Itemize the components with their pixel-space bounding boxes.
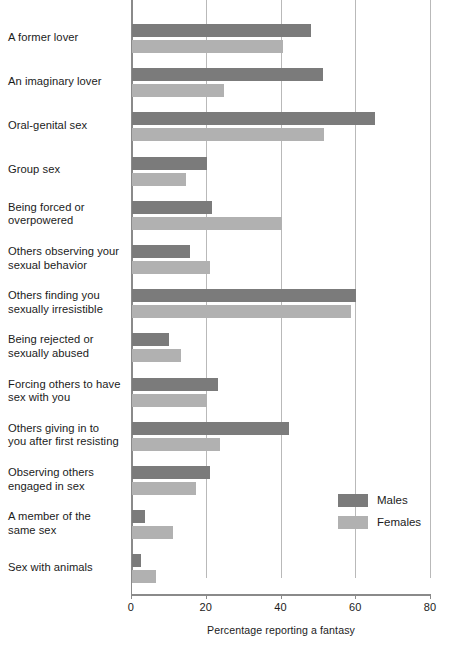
category-label-12: Sex with animals bbox=[8, 561, 126, 575]
bar-males-0 bbox=[132, 24, 311, 37]
bar-females-9 bbox=[132, 438, 220, 451]
bar-females-5 bbox=[132, 261, 210, 274]
bar-males-12 bbox=[132, 554, 141, 567]
tick-label-60: 60 bbox=[349, 601, 362, 613]
category-label-7: Being rejected orsexually abused bbox=[8, 333, 126, 360]
tick-mark-80 bbox=[430, 594, 431, 599]
legend: Males Females bbox=[338, 489, 438, 533]
category-label-3: Group sex bbox=[8, 163, 126, 177]
bar-females-1 bbox=[132, 84, 224, 97]
bar-males-3 bbox=[132, 157, 207, 170]
tick-label-80: 80 bbox=[424, 601, 437, 613]
category-label-11: A member of thesame sex bbox=[8, 510, 126, 537]
bar-males-7 bbox=[132, 333, 169, 346]
bar-males-8 bbox=[132, 378, 218, 391]
category-label-9: Others giving in toyou after first resis… bbox=[8, 422, 126, 449]
legend-item-females: Females bbox=[338, 511, 438, 533]
bar-males-11 bbox=[132, 510, 145, 523]
category-label-0: A former lover bbox=[8, 31, 126, 45]
category-label-6: Others finding yousexually irresistible bbox=[8, 289, 126, 316]
tick-mark-40 bbox=[281, 594, 282, 599]
bar-females-0 bbox=[132, 40, 283, 53]
category-label-10: Observing othersengaged in sex bbox=[8, 466, 126, 493]
tick-mark-60 bbox=[355, 594, 356, 599]
bar-chart: A former loverAn imaginary loverOral-gen… bbox=[0, 0, 455, 646]
category-label-2: Oral-genital sex bbox=[8, 119, 126, 133]
bar-males-6 bbox=[132, 289, 356, 302]
category-label-8: Forcing others to havesex with you bbox=[8, 378, 126, 405]
bar-females-7 bbox=[132, 349, 181, 362]
bar-males-10 bbox=[132, 466, 210, 479]
legend-swatch-males bbox=[338, 494, 368, 507]
legend-swatch-females bbox=[338, 516, 368, 529]
bar-females-4 bbox=[132, 217, 282, 230]
category-label-1: An imaginary lover bbox=[8, 75, 126, 89]
legend-item-males: Males bbox=[338, 489, 438, 511]
tick-label-40: 40 bbox=[274, 601, 287, 613]
bar-males-5 bbox=[132, 245, 190, 258]
bar-females-8 bbox=[132, 394, 207, 407]
bar-females-2 bbox=[132, 128, 324, 141]
category-label-4: Being forced oroverpowered bbox=[8, 201, 126, 228]
bar-males-4 bbox=[132, 201, 212, 214]
bar-males-1 bbox=[132, 68, 323, 81]
tick-label-0: 0 bbox=[128, 601, 134, 613]
legend-label-males: Males bbox=[377, 494, 408, 506]
bar-females-3 bbox=[132, 173, 186, 186]
bar-females-6 bbox=[132, 305, 351, 318]
bar-females-12 bbox=[132, 570, 156, 583]
bar-males-2 bbox=[132, 112, 375, 125]
tick-mark-0 bbox=[131, 594, 132, 599]
tick-label-20: 20 bbox=[199, 601, 212, 613]
category-label-5: Others observing yoursexual behavior bbox=[8, 245, 126, 272]
bar-females-11 bbox=[132, 526, 173, 539]
tick-mark-20 bbox=[206, 594, 207, 599]
x-axis-title: Percentage reporting a fantasy bbox=[131, 624, 431, 636]
bar-females-10 bbox=[132, 482, 196, 495]
legend-label-females: Females bbox=[377, 516, 421, 528]
bar-males-9 bbox=[132, 422, 289, 435]
